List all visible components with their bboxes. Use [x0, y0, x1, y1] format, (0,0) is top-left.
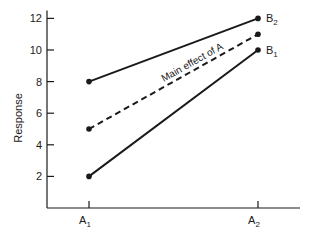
series-label-subscript: 1	[273, 50, 278, 59]
data-point	[86, 174, 92, 180]
y-tick-label: 12	[30, 12, 42, 24]
y-axis-label: Response	[12, 93, 24, 143]
y-tick-label: 2	[36, 170, 42, 182]
x-tick-label-subscript: 2	[255, 220, 260, 229]
x-tick-label-subscript: 1	[86, 220, 91, 229]
series-label: B1	[266, 44, 278, 59]
y-tick-label: 6	[36, 107, 42, 119]
data-point	[255, 31, 261, 37]
x-tick-label: A1	[79, 214, 91, 229]
data-point	[255, 47, 261, 53]
y-tick-label: 10	[30, 44, 42, 56]
x-tick-label: A2	[248, 214, 260, 229]
data-point	[86, 126, 92, 132]
series-line-main-effect-of-a	[89, 34, 258, 129]
series-group	[86, 16, 261, 180]
data-point	[86, 79, 92, 85]
y-tick-label: 8	[36, 76, 42, 88]
series-label-subscript: 2	[273, 18, 278, 27]
series-label: B2	[266, 12, 278, 27]
annotation-main-effect: Main effect of A	[159, 40, 225, 83]
y-tick-label: 4	[36, 139, 42, 151]
data-point	[255, 16, 261, 22]
chart: 24681012A1A2 B2B1Main effect of A Respon…	[0, 0, 316, 234]
